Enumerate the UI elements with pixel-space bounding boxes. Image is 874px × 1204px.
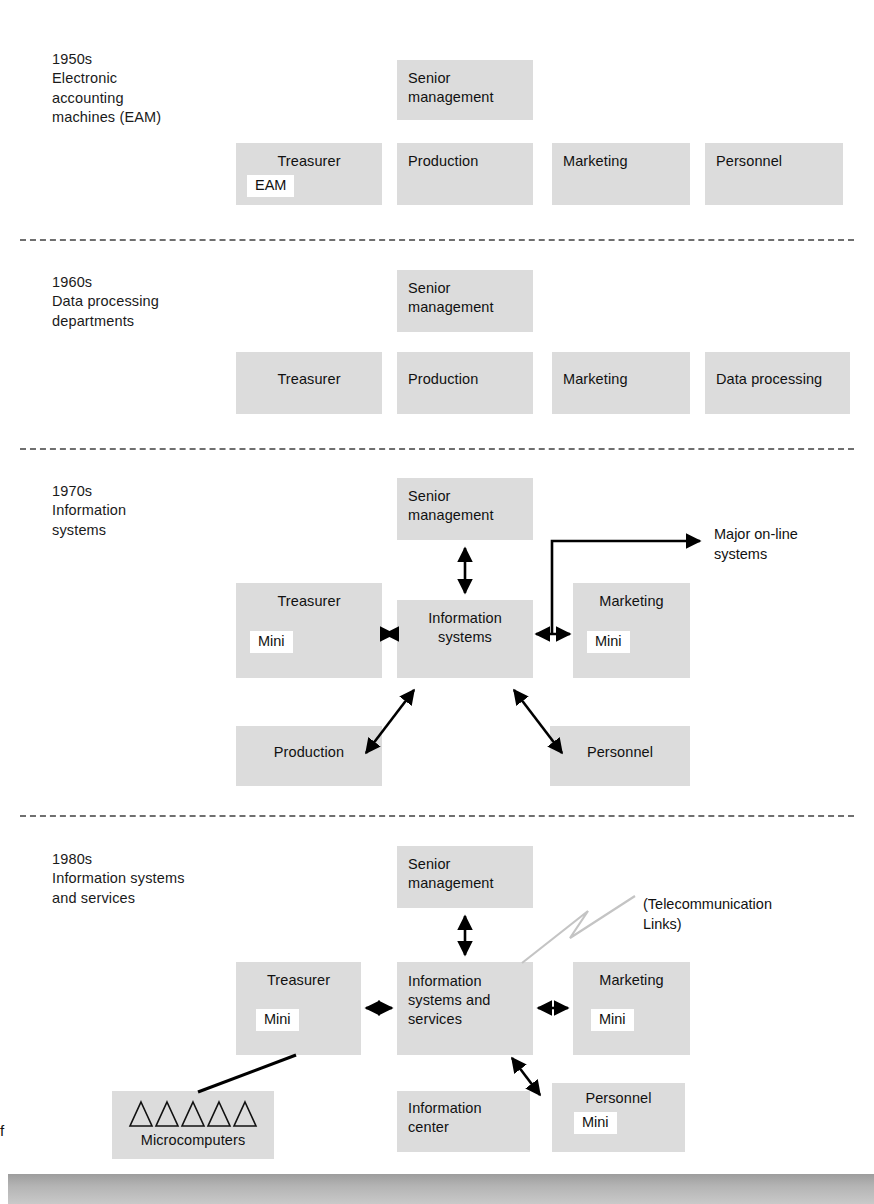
box-title: Senior management xyxy=(408,279,522,317)
box-1960s-data-processing[interactable]: Data processing xyxy=(705,352,850,414)
box-title: Treasurer xyxy=(247,152,371,171)
box-1980s-information-center[interactable]: Information center xyxy=(397,1091,530,1152)
box-title: Personnel xyxy=(561,743,679,762)
box-title: Treasurer xyxy=(247,592,371,611)
bottom-gray-bar xyxy=(8,1174,874,1204)
box-1970s-personnel[interactable]: Personnel xyxy=(550,726,690,786)
triangle-icon xyxy=(234,1102,256,1126)
box-title: Senior management xyxy=(408,487,522,525)
box-title: Production xyxy=(247,743,371,762)
box-title: Marketing xyxy=(563,370,679,389)
box-title: Marketing xyxy=(584,971,679,990)
era-label-1980s: 1980sInformation systems and services xyxy=(52,830,185,908)
box-1970s-senior-management[interactable]: Senior management xyxy=(397,478,533,540)
box-title: Treasurer xyxy=(247,971,350,990)
triangle-icon xyxy=(182,1102,204,1126)
box-1950s-treasurer[interactable]: Treasurer EAM xyxy=(236,143,382,205)
annotation-major-online-systems: Major on-line systems xyxy=(714,524,798,564)
box-1980s-treasurer[interactable]: Treasurer Mini xyxy=(236,962,361,1055)
box-title: Personnel xyxy=(716,152,832,171)
tag-eam: EAM xyxy=(247,175,294,197)
era-caption-1950s: Electronic accounting machines (EAM) xyxy=(52,70,161,125)
box-1960s-marketing[interactable]: Marketing xyxy=(552,352,690,414)
box-title: Personnel xyxy=(563,1089,674,1108)
box-1980s-marketing[interactable]: Marketing Mini xyxy=(573,962,690,1055)
box-title: Data processing xyxy=(716,370,839,389)
box-title: Senior management xyxy=(408,855,522,893)
era-decade-1950s: 1950s xyxy=(52,50,161,70)
tag-mini: Mini xyxy=(591,1009,634,1031)
box-title: Senior management xyxy=(408,69,522,107)
box-1960s-production[interactable]: Production xyxy=(397,352,533,414)
page-edge-fragment: f xyxy=(0,1122,4,1139)
era-decade-1980s: 1980s xyxy=(52,850,185,870)
era-caption-1980s: Information systems and services xyxy=(52,870,185,906)
box-title: Marketing xyxy=(584,592,679,611)
box-1970s-marketing[interactable]: Marketing Mini xyxy=(573,583,690,678)
box-title: Information systems and services xyxy=(408,972,522,1029)
box-1970s-information-systems[interactable]: Information systems xyxy=(397,600,533,678)
triangle-icon xyxy=(208,1102,230,1126)
box-1970s-production[interactable]: Production xyxy=(236,726,382,786)
separator-1960s-1970s xyxy=(20,448,854,450)
triangle-icon xyxy=(156,1102,178,1126)
box-1980s-information-systems-and-services[interactable]: Information systems and services xyxy=(397,962,533,1055)
triangle-icon xyxy=(130,1102,152,1126)
telecommunication-lightning-icon xyxy=(522,896,635,963)
box-1960s-treasurer[interactable]: Treasurer xyxy=(236,352,382,414)
separator-1970s-1980s xyxy=(20,815,854,817)
box-1970s-treasurer[interactable]: Treasurer Mini xyxy=(236,583,382,678)
annotation-telecommunication-links: (Telecommunication Links) xyxy=(643,894,772,934)
figure-canvas: 1950sElectronic accounting machines (EAM… xyxy=(0,0,874,1204)
era-decade-1970s: 1970s xyxy=(52,482,126,502)
tag-mini: Mini xyxy=(250,631,293,653)
box-1980s-microcomputers[interactable]: Microcomputers xyxy=(112,1091,274,1159)
box-title: Information center xyxy=(408,1099,519,1137)
box-1980s-personnel[interactable]: Personnel Mini xyxy=(552,1083,685,1152)
era-caption-1970s: Information systems xyxy=(52,502,126,538)
microcomputer-triangle-row xyxy=(128,1099,260,1133)
box-1950s-production[interactable]: Production xyxy=(397,143,533,205)
box-title: Production xyxy=(408,152,522,171)
box-title: Microcomputers xyxy=(112,1131,274,1150)
box-1950s-marketing[interactable]: Marketing xyxy=(552,143,690,205)
tag-mini: Mini xyxy=(256,1009,299,1031)
box-1950s-senior-management[interactable]: Senior management xyxy=(397,60,533,120)
box-title: Marketing xyxy=(563,152,679,171)
box-1960s-senior-management[interactable]: Senior management xyxy=(397,270,533,332)
era-decade-1960s: 1960s xyxy=(52,273,159,293)
separator-1950s-1960s xyxy=(20,239,854,241)
box-title: Information systems xyxy=(408,609,522,647)
era-label-1960s: 1960sData processing departments xyxy=(52,253,159,331)
tag-mini: Mini xyxy=(587,631,630,653)
tag-mini: Mini xyxy=(574,1112,617,1134)
box-title: Production xyxy=(408,370,522,389)
arrow-1980s-iss-personnel xyxy=(512,1058,540,1095)
box-1980s-senior-management[interactable]: Senior management xyxy=(397,846,533,908)
connector-1980s-treasurer-microcomputers xyxy=(198,1055,296,1092)
era-label-1950s: 1950sElectronic accounting machines (EAM… xyxy=(52,30,161,128)
era-label-1970s: 1970sInformation systems xyxy=(52,462,126,540)
era-caption-1960s: Data processing departments xyxy=(52,293,159,329)
box-1950s-personnel[interactable]: Personnel xyxy=(705,143,843,205)
box-title: Treasurer xyxy=(247,370,371,389)
